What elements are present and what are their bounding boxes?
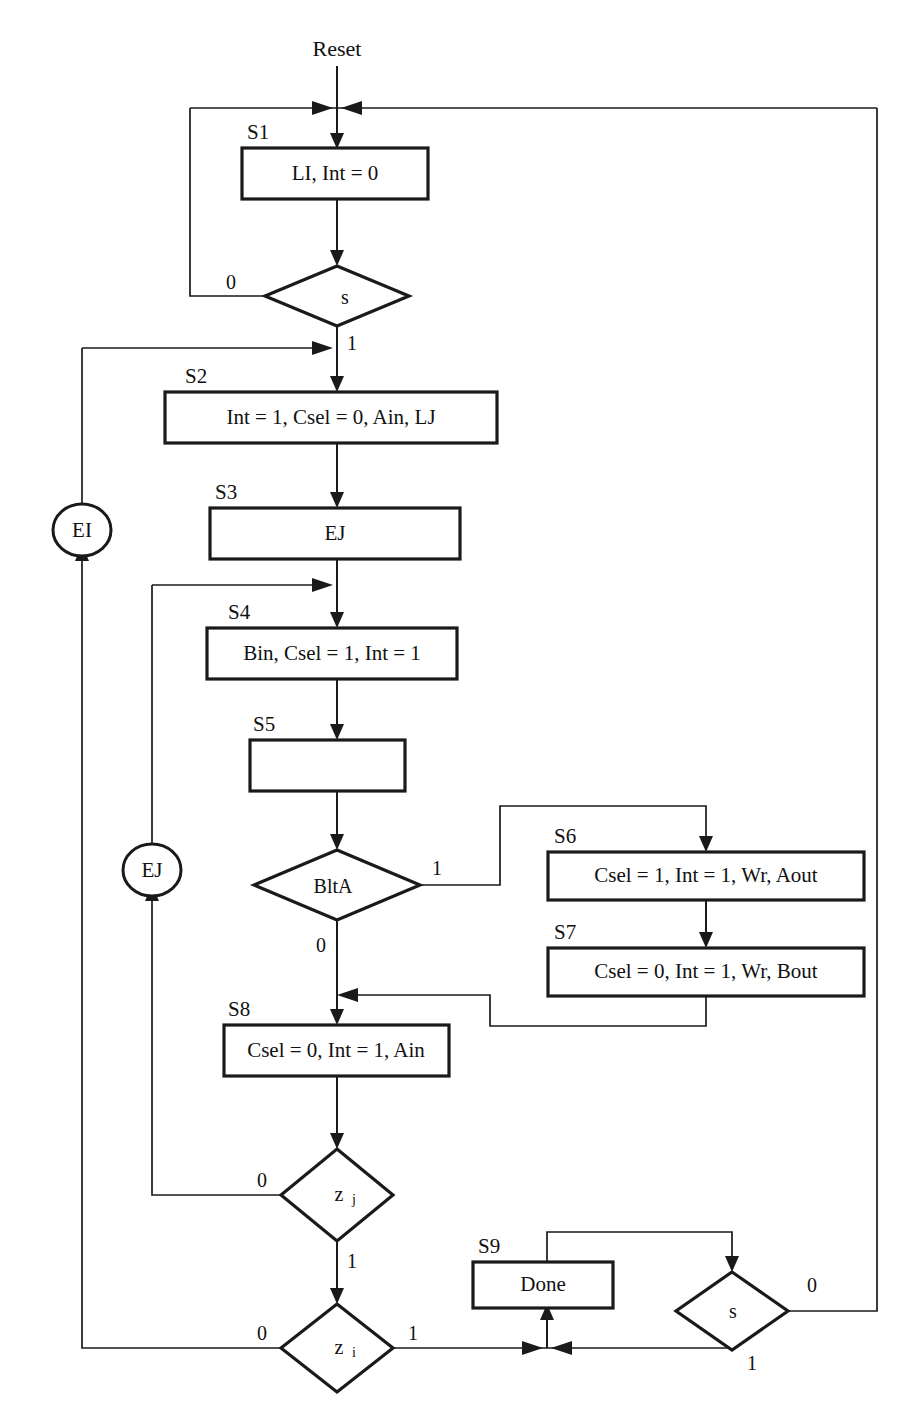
arrowhead-ej-return	[312, 578, 333, 592]
arrowhead-s2-s3	[330, 492, 344, 508]
edge-label-zj-zero: 0	[257, 1169, 267, 1191]
arrowhead-stop-s2	[330, 376, 344, 392]
state-label-s8: S8	[228, 997, 250, 1021]
state-label-s7: S7	[554, 920, 576, 944]
arrowhead-top-right-merge	[341, 101, 362, 115]
state-label-s1: S1	[247, 120, 269, 144]
arrowhead-s3-s4	[330, 612, 344, 628]
decision-zi-text: z	[335, 1336, 344, 1358]
state-text-s7: Csel = 0, Int = 1, Wr, Bout	[594, 959, 818, 983]
arrowhead-blta-s8	[330, 1009, 344, 1025]
state-label-s4: S4	[228, 600, 251, 624]
state-label-s9: S9	[478, 1234, 500, 1258]
state-label-s3: S3	[215, 480, 237, 504]
edge-label-blta-zero: 0	[316, 934, 326, 956]
arrowhead-zj-zi	[330, 1288, 344, 1304]
state-label-s5: S5	[253, 712, 275, 736]
state-text-s2: Int = 1, Csel = 0, Ain, LJ	[226, 405, 435, 429]
state-text-s1: LI, Int = 0	[292, 161, 379, 185]
state-box-s5	[250, 740, 405, 791]
arrowhead-s5-blta	[330, 834, 344, 850]
state-text-s8: Csel = 0, Int = 1, Ain	[247, 1038, 425, 1062]
decision-zj-text: z	[335, 1183, 344, 1205]
edge-label-s-bottom-one: 1	[747, 1352, 757, 1374]
state-label-s6: S6	[554, 824, 576, 848]
decision-s-bottom-text: s	[729, 1300, 737, 1322]
state-label-s2: S2	[185, 364, 207, 388]
entry-label: Reset	[313, 36, 362, 61]
flowchart-canvas: Reset S1 LI, Int = 0 s 0 1 S2 Int = 1, C…	[0, 0, 919, 1423]
decision-s-top	[265, 266, 409, 326]
edge-label-zi-one: 1	[408, 1322, 418, 1344]
edge-label-s-top-one: 1	[347, 332, 357, 354]
arrowhead-s6-s7	[699, 932, 713, 948]
arrowhead-s8-zj	[330, 1133, 344, 1149]
state-text-s4: Bin, Csel = 1, Int = 1	[243, 641, 421, 665]
edge-label-blta-one: 1	[432, 857, 442, 879]
edge-label-s-top-zero: 0	[226, 271, 236, 293]
arrowhead-s7-merge	[337, 988, 358, 1002]
arrowhead-blta-s6	[699, 836, 713, 852]
connector-ei-text: EI	[72, 518, 92, 542]
arrowhead-top-left-merge	[312, 101, 333, 115]
edge-s7-merge-to-s8	[345, 995, 706, 1026]
arrowhead-merge-from-left	[522, 1341, 543, 1355]
state-text-s3: EJ	[325, 521, 346, 545]
decision-zj-subscript: j	[351, 1192, 356, 1207]
arrowhead-s1-stop	[330, 250, 344, 266]
state-text-s6: Csel = 1, Int = 1, Wr, Aout	[594, 863, 818, 887]
edge-label-s-bottom-zero: 0	[807, 1274, 817, 1296]
arrowhead-s4-s5	[330, 724, 344, 740]
edge-label-zi-zero: 0	[257, 1322, 267, 1344]
decision-blta-text: BltA	[314, 875, 353, 897]
arrowhead-ei-return	[312, 341, 333, 355]
flowchart-svg: Reset S1 LI, Int = 0 s 0 1 S2 Int = 1, C…	[0, 0, 919, 1423]
decision-zi-subscript: i	[352, 1345, 356, 1360]
edge-label-zj-one: 1	[347, 1250, 357, 1272]
connector-ej-text: EJ	[142, 858, 163, 882]
state-text-s9: Done	[520, 1272, 566, 1296]
arrowhead-merge-from-right	[551, 1341, 572, 1355]
edge-s-bottom-zero	[788, 108, 877, 1311]
arrowhead-s9-sbottom	[725, 1256, 739, 1272]
decision-s-top-text: s	[341, 286, 349, 308]
